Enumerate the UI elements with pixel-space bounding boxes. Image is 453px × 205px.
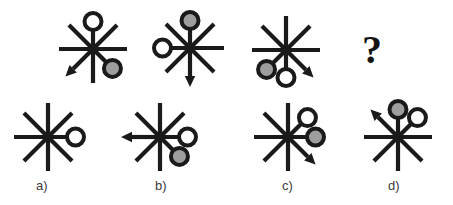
option-b-spoke-sw — [136, 137, 160, 161]
option-b-label[interactable]: b) — [155, 178, 167, 193]
option-a-spoke-sw — [24, 137, 48, 161]
option-a-label[interactable]: a) — [36, 178, 48, 193]
prompt-figure-3-spoke-nw — [262, 26, 286, 50]
option-d-marker-gray-n — [390, 101, 407, 118]
option-d-spoke-se — [398, 137, 422, 161]
prompt-figure-2-marker-white-w — [154, 40, 171, 57]
option-d-label[interactable]: d) — [388, 178, 400, 193]
option-b-spoke-nw — [136, 113, 160, 137]
option-a-spoke-nw — [24, 113, 48, 137]
prompt-figure-2-marker-gray-n — [182, 12, 199, 29]
option-b-marker-white-e — [179, 129, 196, 146]
option-c-spoke-nw — [264, 113, 288, 137]
option-c-spoke-sw — [264, 137, 288, 161]
prompt-figure-1-marker-white-n — [85, 13, 102, 30]
puzzle-canvas: ?a)b)c)d) — [0, 0, 453, 205]
option-d-spoke-sw — [374, 137, 398, 161]
option-d-marker-white-ne — [409, 109, 426, 126]
prompt-figure-3-spoke-ne — [286, 26, 310, 50]
missing-figure-question-mark: ? — [362, 30, 382, 70]
prompt-figure-2-spoke-se — [190, 48, 214, 72]
option-c-label[interactable]: c) — [282, 178, 293, 193]
option-c-marker-white-ne — [299, 109, 316, 126]
option-b-marker-gray-se — [171, 148, 188, 165]
option-c-marker-gray-e — [307, 129, 324, 146]
option-a-marker-white-e — [67, 129, 84, 146]
